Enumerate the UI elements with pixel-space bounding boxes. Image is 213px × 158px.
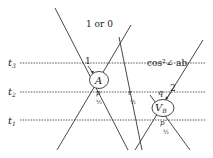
spacetime-diagram: 1 or 0 t3 t2 t1 A VB 1 2 cos²∠ ab p r q … xyxy=(0,0,213,158)
half-label-2: ½ xyxy=(130,98,136,105)
node-A-label: A xyxy=(94,75,102,86)
t2-label: t2 xyxy=(8,86,16,98)
p-prime-label: p′ xyxy=(160,119,166,127)
p-label: p xyxy=(96,89,101,97)
t3-label: t3 xyxy=(8,57,16,69)
cos-label: cos²∠ ab xyxy=(147,58,187,68)
q-label: q xyxy=(158,88,163,97)
half-label-3: ½ xyxy=(163,128,169,135)
marker-1: 1 xyxy=(85,56,91,66)
t1-label: t1 xyxy=(8,115,16,127)
marker-2: 2 xyxy=(170,83,176,93)
half-label-1: ½ xyxy=(96,98,102,105)
title-label: 1 or 0 xyxy=(86,19,113,29)
